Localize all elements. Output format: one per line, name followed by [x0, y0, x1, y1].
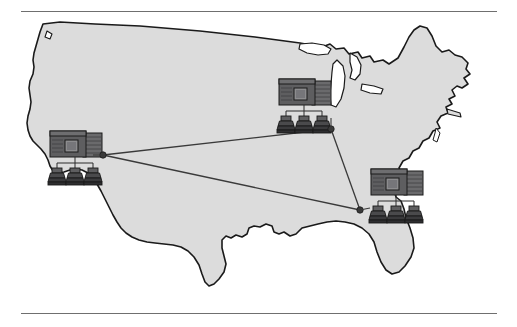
bottom-divider: [21, 313, 497, 314]
us-map-svg: [0, 0, 517, 327]
network-map-figure: [0, 0, 517, 327]
top-divider: [21, 11, 497, 12]
